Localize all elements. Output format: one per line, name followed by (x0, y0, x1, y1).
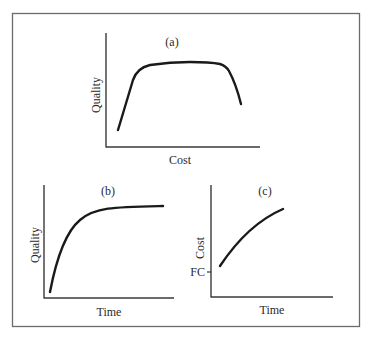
panel-c-fc-label: FC (190, 265, 205, 279)
panel-a: (a) Cost Quality (89, 33, 260, 167)
panel-b-label: (b) (101, 184, 115, 198)
panel-a-curve (118, 62, 241, 130)
panel-b-xlabel: Time (97, 305, 122, 319)
panel-b-curve (50, 206, 163, 292)
panel-c-ylabel: Cost (193, 236, 207, 259)
panel-a-label: (a) (165, 35, 178, 49)
panel-c-xlabel: Time (260, 303, 285, 317)
panel-c: (c) Time Cost FC (190, 184, 333, 317)
panel-c-curve (220, 209, 283, 266)
figure-border (13, 14, 360, 327)
panel-c-label: (c) (258, 184, 271, 198)
panel-a-ylabel: Quality (89, 77, 103, 113)
panel-b: (b) Time Quality (28, 184, 174, 319)
figure-canvas: (a) Cost Quality (b) Time Quality (c) Ti… (0, 0, 371, 337)
panel-a-xlabel: Cost (169, 153, 192, 167)
panel-b-ylabel: Quality (28, 227, 42, 263)
